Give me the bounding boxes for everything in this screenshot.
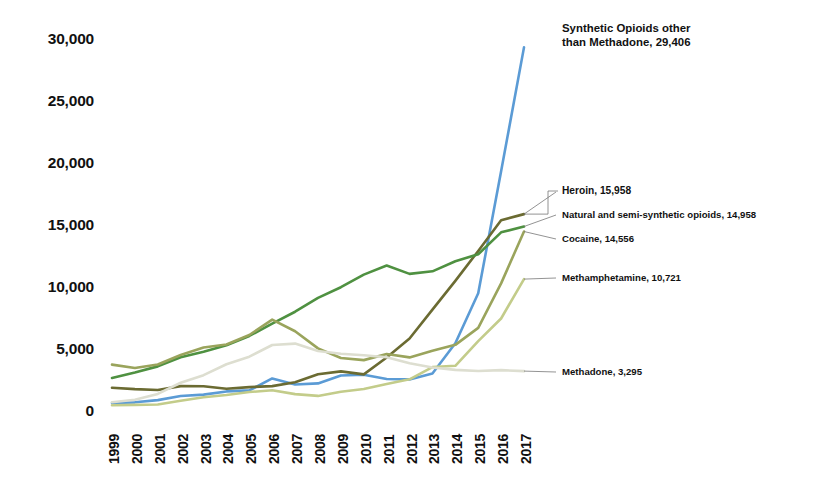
y-axis-tick-0: 0	[86, 402, 94, 420]
x-axis-tick-2000: 2000	[129, 434, 145, 464]
x-axis-tick-2008: 2008	[312, 434, 328, 464]
x-axis-tick-2012: 2012	[404, 434, 420, 464]
y-axis-tick-10000: 10,000	[48, 278, 94, 296]
annotation-synthetic-opioids-line2: than Methadone, 29,406	[562, 36, 691, 50]
x-axis-tick-2010: 2010	[358, 434, 374, 464]
annotation-cocaine: Cocaine, 14,556	[562, 233, 634, 245]
x-axis-tick-2015: 2015	[472, 434, 488, 464]
leader-line-methamphetamine	[524, 278, 556, 279]
x-axis-tick-2017: 2017	[518, 434, 534, 464]
annotation-synthetic-opioids: Synthetic Opioids other than Methadone, …	[562, 22, 691, 50]
x-axis-tick-2001: 2001	[152, 434, 168, 464]
y-axis-tick-5000: 5,000	[56, 340, 94, 358]
x-axis-tick-2013: 2013	[426, 434, 442, 464]
x-axis-tick-1999: 1999	[106, 434, 122, 464]
leader-line-cocaine	[524, 232, 556, 240]
series-line-cocaine	[112, 232, 524, 369]
annotation-synthetic-opioids-line1: Synthetic Opioids other	[562, 22, 691, 36]
leader-line-heroin	[524, 192, 556, 214]
x-axis-tick-2005: 2005	[243, 434, 259, 464]
x-axis-tick-2007: 2007	[289, 434, 305, 464]
opioid-overdose-deaths-line-chart: 05,00010,00015,00020,00025,00030,000 199…	[0, 0, 824, 496]
annotation-natural-opioids: Natural and semi-synthetic opioids, 14,9…	[562, 209, 756, 221]
x-axis-tick-2003: 2003	[198, 434, 214, 464]
annotation-leader-lines	[524, 191, 558, 372]
y-axis-tick-20000: 20,000	[48, 154, 94, 172]
leader-line-methadone	[524, 371, 556, 372]
annotation-methamphetamine: Methamphetamine, 10,721	[562, 272, 681, 284]
x-axis-tick-2004: 2004	[220, 434, 236, 464]
x-axis-tick-2014: 2014	[449, 434, 465, 464]
leader-line-natural-and-semi-synthetic-opioids	[524, 215, 556, 227]
x-axis-tick-2009: 2009	[335, 434, 351, 464]
chart-plot-area	[0, 0, 824, 496]
series-line-natural-and-semi-synthetic-opioids	[112, 227, 524, 378]
y-axis-tick-25000: 25,000	[48, 92, 94, 110]
annotation-heroin: Heroin, 15,958	[562, 185, 631, 197]
annotation-methadone: Methadone, 3,295	[562, 366, 642, 378]
y-axis-tick-15000: 15,000	[48, 216, 94, 234]
x-axis-tick-2011: 2011	[381, 435, 397, 464]
series-line-methadone	[112, 344, 524, 403]
series-line-heroin	[112, 214, 524, 390]
x-axis-tick-2002: 2002	[175, 434, 191, 464]
y-axis-tick-30000: 30,000	[48, 30, 94, 48]
x-axis-tick-2016: 2016	[495, 434, 511, 464]
x-axis-tick-2006: 2006	[266, 434, 282, 464]
